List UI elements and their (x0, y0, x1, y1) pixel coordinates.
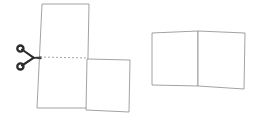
result-left-sheet (152, 31, 198, 86)
diagram-canvas (0, 0, 263, 125)
paper-cut-diagram (0, 0, 263, 125)
right-group (152, 31, 245, 89)
scissors-icon (17, 46, 41, 70)
upper-left-sheet (37, 4, 89, 108)
result-right-sheet (198, 31, 245, 89)
lower-right-sheet (86, 59, 130, 112)
left-group (17, 4, 130, 112)
